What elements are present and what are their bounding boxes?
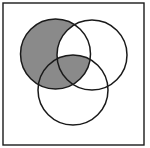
venn-diagram bbox=[0, 0, 150, 148]
